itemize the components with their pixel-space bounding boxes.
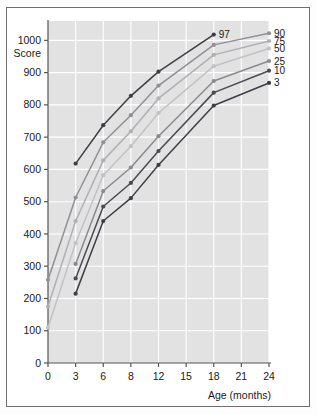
y-tick-label: 100 <box>23 324 41 336</box>
data-point-marker <box>212 53 216 57</box>
data-point-marker <box>101 123 105 127</box>
series-end-label-3: 3 <box>274 77 280 88</box>
data-point-marker <box>101 189 105 193</box>
annotations: 97 <box>219 29 231 40</box>
data-point-marker <box>212 43 216 47</box>
data-point-marker <box>74 276 78 280</box>
data-point-marker <box>101 173 105 177</box>
data-point-marker <box>101 140 105 144</box>
data-point-marker <box>267 46 271 50</box>
data-point-marker <box>46 278 50 282</box>
data-point-marker <box>74 195 78 199</box>
data-point-marker <box>74 262 78 266</box>
data-point-marker <box>101 158 105 162</box>
data-point-marker <box>267 39 271 43</box>
data-point-marker <box>129 196 133 200</box>
data-point-marker <box>267 81 271 85</box>
data-point-marker <box>46 304 50 308</box>
data-point-marker <box>101 219 105 223</box>
x-tick-label: 0 <box>45 370 51 382</box>
data-point-marker <box>156 163 160 167</box>
y-tick-label: 600 <box>23 163 41 175</box>
y-axis-ticks: 01002003004005006007008009001000 <box>18 34 48 369</box>
y-tick-label: 300 <box>23 260 41 272</box>
x-axis-ticks: 03681215182124 <box>45 363 275 382</box>
y-tick-label: 800 <box>23 98 41 110</box>
data-point-marker <box>129 181 133 185</box>
data-point-marker <box>156 149 160 153</box>
x-tick-label: 6 <box>100 370 106 382</box>
y-tick-label: 700 <box>23 131 41 143</box>
y-axis-title: Score <box>14 47 42 59</box>
series-end-label-50: 50 <box>274 43 286 54</box>
data-point-marker <box>212 32 216 36</box>
chart-figure: 01002003004005006007008009001000Score036… <box>0 0 317 415</box>
x-tick-label: 8 <box>128 370 134 382</box>
data-point-marker <box>74 292 78 296</box>
x-tick-label: 18 <box>208 370 220 382</box>
data-point-marker <box>267 59 271 63</box>
x-tick-label: 21 <box>236 370 248 382</box>
x-tick-label: 3 <box>73 370 79 382</box>
data-point-marker <box>74 162 78 166</box>
percentile-growth-chart: 01002003004005006007008009001000Score036… <box>0 0 317 415</box>
y-tick-label: 900 <box>23 66 41 78</box>
data-point-marker <box>156 70 160 74</box>
data-point-marker <box>212 103 216 107</box>
x-tick-label: 15 <box>180 370 192 382</box>
data-point-marker <box>129 113 133 117</box>
data-point-marker <box>129 129 133 133</box>
annotation-label-97: 97 <box>219 29 231 40</box>
x-tick-label: 24 <box>263 370 275 382</box>
data-point-marker <box>267 31 271 35</box>
data-point-marker <box>156 111 160 115</box>
data-point-marker <box>156 83 160 87</box>
data-point-marker <box>212 64 216 68</box>
data-point-marker <box>212 91 216 95</box>
data-point-marker <box>129 165 133 169</box>
x-tick-label: 12 <box>153 370 165 382</box>
y-tick-label: 1000 <box>18 34 42 46</box>
data-point-marker <box>129 94 133 98</box>
data-point-marker <box>156 96 160 100</box>
y-tick-label: 500 <box>23 195 41 207</box>
data-point-marker <box>46 325 50 329</box>
y-tick-label: 400 <box>23 228 41 240</box>
data-point-marker <box>156 134 160 138</box>
y-tick-label: 0 <box>35 357 41 369</box>
data-point-marker <box>74 241 78 245</box>
series-end-label-10: 10 <box>274 65 286 76</box>
data-point-marker <box>212 79 216 83</box>
data-point-marker <box>129 144 133 148</box>
y-tick-label: 200 <box>23 292 41 304</box>
data-point-marker <box>74 219 78 223</box>
data-point-marker <box>267 69 271 73</box>
x-axis-title: Age (months) <box>208 389 271 401</box>
data-point-marker <box>101 204 105 208</box>
